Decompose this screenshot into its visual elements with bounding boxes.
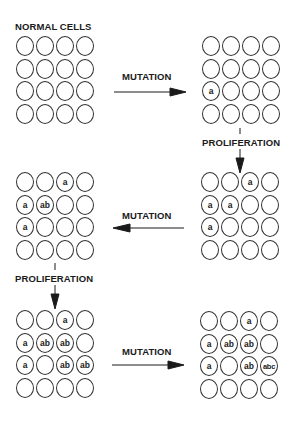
arrow-down-icon xyxy=(236,128,244,173)
mutated-cell: a xyxy=(16,195,34,215)
mutated-cell: a xyxy=(200,356,218,376)
mutated-cell: a xyxy=(56,310,74,330)
grid-after-mutation-3: aaababaababc xyxy=(200,311,279,401)
normal-cell xyxy=(221,172,239,192)
mutated-cell: a xyxy=(202,81,220,101)
normal-cell xyxy=(36,355,54,375)
normal-cell xyxy=(202,36,220,56)
normal-cell xyxy=(16,59,34,79)
normal-cell xyxy=(201,172,219,192)
normal-cell xyxy=(240,379,258,399)
normal-cell xyxy=(16,310,34,330)
normal-cell xyxy=(16,240,34,260)
normal-cell xyxy=(76,36,94,56)
normal-cell xyxy=(56,240,74,260)
normal-cell xyxy=(200,311,218,331)
normal-cell xyxy=(261,240,279,260)
normal-cell xyxy=(262,81,280,101)
mutated-cell: a xyxy=(241,172,259,192)
normal-cell xyxy=(222,81,240,101)
normal-cell xyxy=(36,104,54,124)
normal-cell xyxy=(76,378,94,398)
normal-cell xyxy=(222,36,240,56)
mutated-cell: ab xyxy=(76,355,94,375)
normal-cell xyxy=(36,172,54,192)
normal-cell xyxy=(36,310,54,330)
mutated-cell: ab xyxy=(56,355,74,375)
mutated-cell: a xyxy=(240,311,258,331)
normal-cell xyxy=(260,311,278,331)
normal-cell xyxy=(56,195,74,215)
normal-cell xyxy=(220,379,238,399)
normal-cell xyxy=(241,195,259,215)
normal-cell xyxy=(76,195,94,215)
mutated-cell: a xyxy=(200,334,218,354)
grid-after-mutation-2: aaaba xyxy=(16,172,95,262)
normal-cell xyxy=(221,217,239,237)
normal-cell xyxy=(16,378,34,398)
normal-cell xyxy=(262,59,280,79)
normal-cell xyxy=(260,334,278,354)
arrow-right-icon xyxy=(112,361,184,369)
mutated-cell: ab xyxy=(240,356,258,376)
normal-cell xyxy=(56,104,74,124)
normal-cell xyxy=(222,104,240,124)
arrow-down-icon xyxy=(51,263,59,309)
mutated-cell: a xyxy=(16,355,34,375)
normal-cell xyxy=(241,217,259,237)
normal-cell xyxy=(200,379,218,399)
mutated-cell: ab xyxy=(36,333,54,353)
mutated-cell: ab xyxy=(36,195,54,215)
normal-cell xyxy=(201,240,219,260)
normal-cell xyxy=(76,172,94,192)
normal-cell xyxy=(36,217,54,237)
normal-cell xyxy=(221,240,239,260)
normal-cell xyxy=(76,59,94,79)
mutated-cell: a xyxy=(16,333,34,353)
normal-cell xyxy=(76,217,94,237)
normal-cell xyxy=(36,81,54,101)
grid-normal-cells xyxy=(16,36,95,126)
normal-cell xyxy=(16,172,34,192)
normal-cell xyxy=(56,36,74,56)
grid-after-proliferation-1: aaaa xyxy=(201,172,280,262)
grid-after-mutation-1: a xyxy=(202,36,281,126)
mutated-cell: ab xyxy=(220,334,238,354)
normal-cell xyxy=(220,356,238,376)
normal-cell xyxy=(76,240,94,260)
normal-cell xyxy=(56,378,74,398)
grid-after-proliferation-2: aaababaabab xyxy=(16,310,95,400)
normal-cell xyxy=(76,310,94,330)
normal-cell xyxy=(56,217,74,237)
normal-cell xyxy=(242,59,260,79)
normal-cell xyxy=(261,172,279,192)
normal-cell xyxy=(220,311,238,331)
normal-cell xyxy=(36,59,54,79)
arrow-right-icon xyxy=(114,88,186,96)
mutated-cell: abc xyxy=(260,356,278,376)
arrow-left-icon xyxy=(113,224,184,232)
mutated-cell: ab xyxy=(56,333,74,353)
mutated-cell: a xyxy=(56,172,74,192)
normal-cell xyxy=(241,240,259,260)
normal-cell xyxy=(262,36,280,56)
normal-cell xyxy=(222,59,240,79)
mutated-cell: a xyxy=(201,217,219,237)
mutated-cell: a xyxy=(16,217,34,237)
normal-cell xyxy=(36,240,54,260)
normal-cell xyxy=(242,104,260,124)
normal-cell xyxy=(202,59,220,79)
normal-cell xyxy=(260,379,278,399)
normal-cell xyxy=(261,217,279,237)
normal-cell xyxy=(56,81,74,101)
normal-cell xyxy=(76,81,94,101)
normal-cell xyxy=(242,36,260,56)
normal-cell xyxy=(261,195,279,215)
normal-cell xyxy=(262,104,280,124)
normal-cell xyxy=(56,59,74,79)
mutated-cell: a xyxy=(221,195,239,215)
normal-cell xyxy=(36,36,54,56)
normal-cell xyxy=(76,104,94,124)
normal-cell xyxy=(202,104,220,124)
mutated-cell: ab xyxy=(240,334,258,354)
